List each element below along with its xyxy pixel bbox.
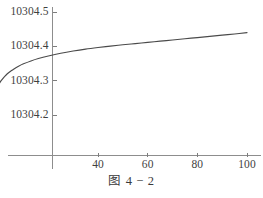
y-axis-tick-marks xyxy=(53,12,58,115)
x-tick-label: 40 xyxy=(92,159,104,171)
figure-caption: 图 4 − 2 xyxy=(0,175,263,189)
x-tick-label: 80 xyxy=(191,159,203,171)
x-tick-label: 60 xyxy=(142,159,154,171)
y-tick-label: 10304.3 xyxy=(10,75,48,87)
figure-container: 10304.210304.310304.410304.5 406080100 图… xyxy=(0,0,263,198)
plot-area xyxy=(0,0,263,198)
y-tick-label: 10304.4 xyxy=(10,41,48,53)
y-tick-label: 10304.2 xyxy=(10,109,48,121)
y-tick-label: 10304.5 xyxy=(10,6,48,18)
x-tick-label: 100 xyxy=(238,159,256,171)
